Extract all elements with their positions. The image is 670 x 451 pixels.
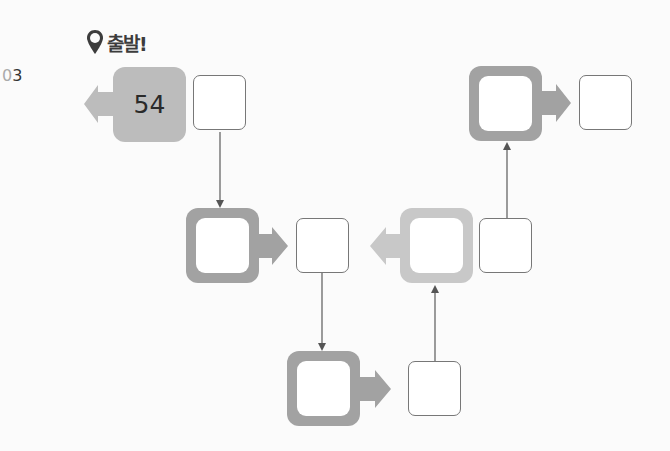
op1-arrow-right-icon — [257, 227, 288, 265]
answer-box-3[interactable] — [479, 218, 532, 273]
arrowhead-up-icon — [503, 142, 511, 150]
arrowhead-down-icon — [216, 200, 224, 208]
answer-box-4[interactable] — [579, 75, 632, 130]
start-value: 54 — [134, 90, 166, 119]
operation-input-1[interactable] — [196, 218, 249, 273]
answer-box-1[interactable] — [296, 218, 349, 273]
op3-arrow-left-icon — [370, 227, 401, 265]
operation-input-4[interactable] — [479, 76, 532, 131]
operation-box-1 — [186, 208, 259, 283]
operation-input-3[interactable] — [410, 218, 463, 273]
operation-box-4 — [469, 66, 542, 141]
arrowhead-down-icon — [318, 343, 326, 351]
start-arrow-left-icon — [84, 85, 114, 123]
answer-box-2[interactable] — [408, 361, 461, 416]
op4-arrow-right-icon — [541, 84, 571, 122]
op2-arrow-right-icon — [360, 370, 391, 408]
arrowhead-up-icon — [431, 285, 439, 293]
operation-box-3 — [400, 208, 473, 283]
operation-box-2 — [287, 351, 360, 426]
start-value-box: 54 — [113, 67, 186, 142]
answer-box-0[interactable] — [193, 75, 246, 130]
operation-input-2[interactable] — [297, 361, 350, 416]
